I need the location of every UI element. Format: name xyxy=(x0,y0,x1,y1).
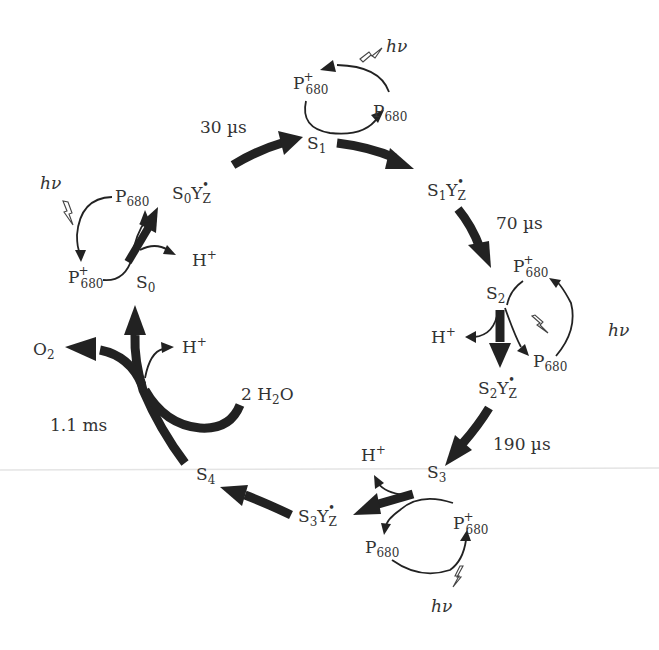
lightning-icon-s3 xyxy=(453,566,463,587)
proton-label-s3: H+ xyxy=(361,443,386,465)
arrow-s4-to-s0 xyxy=(124,305,185,463)
time-s0-to-s1: 30 µs xyxy=(200,117,247,137)
arrow-s1yz-to-s2 xyxy=(458,209,491,268)
light-label-s1: hν xyxy=(386,36,407,56)
lightning-icon-s2 xyxy=(532,315,548,333)
p680-loop-s2 xyxy=(505,278,573,356)
arrow-proton-s2 xyxy=(465,310,498,343)
intermediate-s1yz: S1YZ• xyxy=(427,175,466,203)
p680-s0: P680 xyxy=(115,186,149,209)
p680-s1: P680 xyxy=(373,101,407,124)
state-s0: S0 xyxy=(136,272,155,295)
intermediate-s3yz: S3YZ• xyxy=(298,501,337,529)
state-s4: S4 xyxy=(196,464,216,487)
arrow-s3yz-to-s4 xyxy=(220,485,291,515)
intermediate-s2yz: S2YZ• xyxy=(478,373,517,401)
arrow-proton-s0 xyxy=(140,245,176,255)
light-label-s3: hν xyxy=(431,596,452,616)
lightning-icon-s1 xyxy=(360,48,382,62)
proton-label-s0: H+ xyxy=(192,248,217,270)
light-label-s2: hν xyxy=(608,320,629,340)
arrow-proton-s3 xyxy=(374,475,405,495)
proton-label-s2: H+ xyxy=(431,325,456,347)
kok-cycle-diagram: hν hν hν hν P+680 P680 P680 P+680 P+680 … xyxy=(0,0,659,650)
p680-plus-s3: P+680 xyxy=(453,510,488,537)
time-s1-to-s2: 70 µs xyxy=(496,213,543,233)
scan-line xyxy=(0,468,659,470)
arrow-s2yz-to-s3 xyxy=(445,408,489,466)
state-s3: S3 xyxy=(427,462,446,485)
arrow-s1-to-s1yz xyxy=(337,143,414,169)
oxygen-label: O2 xyxy=(33,339,55,362)
p680-loop-s3 xyxy=(381,499,471,574)
p680-s2: P680 xyxy=(533,351,567,374)
arrow-o2-release xyxy=(65,337,142,385)
state-s2: S2 xyxy=(486,283,505,306)
state-s1: S1 xyxy=(307,133,326,156)
intermediate-s0yz: S0YZ• xyxy=(172,178,211,206)
lightning-icon-s0 xyxy=(63,201,73,225)
time-s4-to-s0: 1.1 ms xyxy=(50,415,107,435)
p680-plus-s1: P+680 xyxy=(293,70,328,97)
p680-plus-s0: P+680 xyxy=(68,264,103,291)
light-label-s0: hν xyxy=(40,173,61,193)
arrow-proton-s4 xyxy=(145,342,174,378)
arrow-s3-to-s3yz xyxy=(353,493,413,515)
p680-s3: P680 xyxy=(365,537,399,560)
p680-plus-s2: P+680 xyxy=(513,253,548,280)
proton-label-s4: H+ xyxy=(182,335,207,357)
water-label: 2 H2O xyxy=(241,384,294,407)
time-s2-to-s3: 190 µs xyxy=(493,434,551,454)
arrow-s2-to-s2yz xyxy=(489,310,511,368)
